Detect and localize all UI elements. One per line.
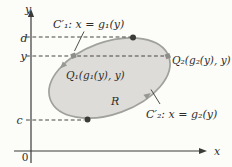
diagram-canvas: y x 0 d y c C′₁: x = g₁(y) Q₁(g₁(y), y) … xyxy=(0,0,232,167)
green-theorem-region-figure: y x 0 d y c C′₁: x = g₁(y) Q₁(g₁(y), y) … xyxy=(0,0,232,167)
origin-label: 0 xyxy=(22,151,29,163)
curve1-label: C′₁: x = g₁(y) xyxy=(53,18,124,31)
curve2-label: C′₂: x = g₂(y) xyxy=(146,108,217,121)
c-tick-label: c xyxy=(16,114,22,127)
q2-label: Q₂(g₂(y), y) xyxy=(172,54,231,67)
x-axis-label: x xyxy=(214,145,221,158)
y-tick-label: y xyxy=(19,50,27,63)
region-label: R xyxy=(110,95,119,108)
d-tick-label: d xyxy=(20,32,27,45)
point-top-d xyxy=(130,35,136,41)
q1-label: Q₁(g₁(y), y) xyxy=(66,69,125,82)
y-axis-label: y xyxy=(24,3,32,16)
point-bottom-c xyxy=(85,117,91,123)
curve1-leader-line xyxy=(75,32,85,52)
x-axis-arrowhead xyxy=(199,148,207,154)
